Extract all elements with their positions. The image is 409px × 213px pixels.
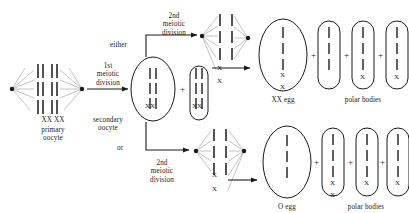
plus-sign-secondary-oocyte: + (180, 85, 185, 94)
label-polar-bodies-top: polar bodies (333, 96, 393, 104)
first-polar-body-cell (190, 66, 208, 120)
label-first-polar-body-xx: XX (192, 103, 202, 110)
plus-sign-top-1: + (311, 51, 316, 60)
polar-body-top-2-x: X (360, 74, 365, 81)
plus-sign-bottom-1: + (314, 158, 319, 167)
spindle-x-top-1: X (217, 65, 222, 72)
primary-oocyte-cell (10, 64, 84, 114)
label-o-egg: O egg (262, 203, 312, 211)
xx-egg-x-2: X (280, 84, 285, 91)
centrosome-dot (194, 149, 198, 153)
spindle-top-left (200, 14, 220, 70)
label-either: either (110, 41, 127, 49)
xx-egg-cell (259, 19, 307, 91)
label-xx-egg: XX egg (258, 96, 308, 104)
label-first-meiotic-division: 1st meiotic division (86, 62, 130, 87)
polar-body-top-1 (318, 21, 340, 89)
spindle-bottom-right (226, 129, 246, 190)
spindle-x-top-2: X (217, 78, 222, 85)
label-second-meiotic-division-bottom: 2nd meiotic division (140, 159, 184, 184)
label-polar-bodies-bottom: polar bodies (336, 203, 396, 211)
label-or: or (117, 144, 123, 152)
or-branch-connector (146, 122, 189, 150)
plus-sign-top-3: + (378, 51, 383, 60)
centrosome-dot (246, 36, 250, 40)
label-second-meiotic-division-top: 2nd meiotic division (152, 12, 196, 37)
meiosis-diagram-canvas: 1st meiotic division XX XX primary oocyt… (0, 0, 409, 213)
centrosome-dot (200, 34, 204, 38)
spindle-x-bottom-1: X (212, 172, 217, 179)
plus-sign-top-2: + (344, 51, 349, 60)
centrosome-dot (10, 87, 14, 91)
label-primary-oocyte-chromosomes: XX XX (32, 116, 74, 124)
label-secondary-oocyte-xx: XX (145, 103, 155, 110)
centrosome-dot (80, 87, 84, 91)
xx-egg-x-1: X (280, 72, 285, 79)
spindle-bottom-left (194, 129, 214, 175)
diagram-vector-layer (0, 0, 409, 213)
label-secondary-oocyte: secondary oocyte (82, 116, 134, 133)
polar-body-bottom-1-x-2: X (330, 192, 335, 199)
polar-body-bottom-1-x-1: X (330, 180, 335, 187)
plus-sign-bottom-2: + (348, 158, 353, 167)
polar-body-top-3-x: X (394, 74, 399, 81)
label-primary-oocyte-name: primary oocyte (27, 126, 79, 143)
spindle-top-right (232, 14, 250, 60)
polar-body-bottom-3-x: X (395, 180, 400, 187)
o-egg-cell (263, 126, 311, 198)
polar-body-bottom-2-x: X (364, 180, 369, 187)
plus-sign-bottom-3: + (380, 158, 385, 167)
secondary-oocyte-large-cell (131, 57, 175, 121)
centrosome-dot (242, 149, 246, 153)
spindle-x-bottom-2: X (212, 186, 217, 193)
either-branch-connector (146, 35, 197, 57)
